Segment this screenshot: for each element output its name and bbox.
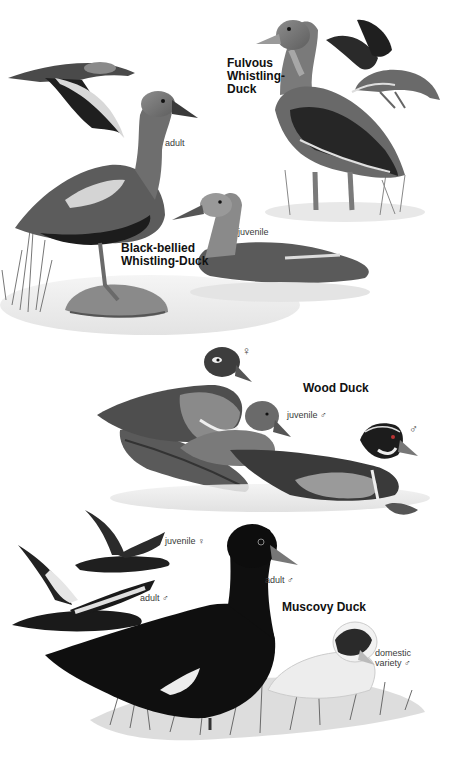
label-male-symbol: ♂ — [409, 424, 418, 435]
wood-duck-female — [97, 347, 252, 442]
species-name-fulvous-whistling-duck: Fulvous Whistling- Duck — [227, 57, 285, 96]
label-juvenile-female: juvenile ♀ — [165, 536, 205, 547]
label-adult-male-flying: adult ♂ — [140, 593, 169, 604]
label-adult-male-standing: adult ♂ — [265, 575, 294, 586]
fulvous-flying — [326, 20, 440, 108]
label-adult: adult — [165, 138, 185, 149]
species-name-black-bellied-whistling-duck: Black-bellied Whistling-Duck — [121, 242, 208, 268]
label-variety-male: variety ♂ — [375, 658, 411, 669]
species-name-wood-duck: Wood Duck — [303, 382, 369, 395]
muscovy-flying-juvenile-female — [75, 510, 170, 573]
name-line: Muscovy Duck — [282, 601, 366, 614]
muscovy-domestic-variety-male — [268, 622, 377, 698]
name-line: Wood Duck — [303, 382, 369, 395]
label-female-symbol: ♀ — [242, 346, 251, 357]
label-juvenile: juvenile — [238, 227, 269, 238]
label-juvenile-male: juvenile ♂ — [287, 410, 327, 421]
black-bellied-flying — [8, 62, 135, 138]
name-line: Duck — [227, 83, 285, 96]
species-name-muscovy-duck: Muscovy Duck — [282, 601, 366, 614]
name-line: Whistling-Duck — [121, 255, 208, 268]
